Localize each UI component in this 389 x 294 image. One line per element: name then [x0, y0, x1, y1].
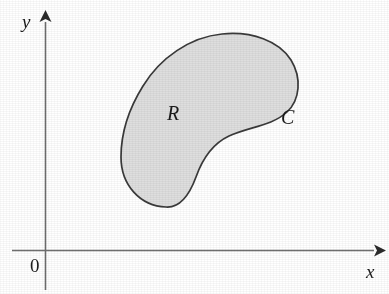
y-axis-arrowhead	[40, 10, 52, 22]
diagram-svg	[0, 0, 389, 294]
origin-label: 0	[30, 256, 40, 275]
region-boundary-curve	[121, 33, 298, 207]
x-axis-arrowhead	[374, 245, 386, 257]
figure-canvas: y x 0 R C	[0, 0, 389, 294]
curve-label-c: C	[281, 107, 294, 127]
y-axis-label: y	[22, 12, 30, 31]
region-label-r: R	[167, 103, 179, 123]
x-axis-label: x	[366, 262, 374, 281]
